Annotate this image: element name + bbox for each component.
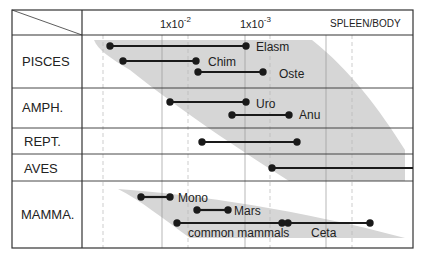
label-mono: Mono <box>178 192 208 204</box>
tick-1e-2: 1x10-2 <box>160 16 191 30</box>
unit-label: SPLEEN/BODY <box>330 19 401 29</box>
row-label-pisces: PISCES <box>22 55 70 68</box>
label-elasm: Elasm <box>256 41 289 53</box>
row-label-mamma: MAMMA. <box>21 208 74 221</box>
label-oste: Oste <box>279 68 304 80</box>
label-ceta: Ceta <box>311 227 336 239</box>
row-label-aves: AVES <box>24 162 58 175</box>
label-chim: Chim <box>208 56 236 68</box>
label-uro: Uro <box>256 98 275 110</box>
label-anu: Anu <box>299 109 320 121</box>
label-common-mammals: common mammals <box>188 227 289 239</box>
header-diagonal <box>12 10 82 35</box>
label-mars: Mars <box>234 205 261 217</box>
row-label-rept: REPT. <box>24 135 61 148</box>
row-label-amph: AMPH. <box>22 101 63 114</box>
tick-1e-3: 1x10-3 <box>240 16 271 30</box>
